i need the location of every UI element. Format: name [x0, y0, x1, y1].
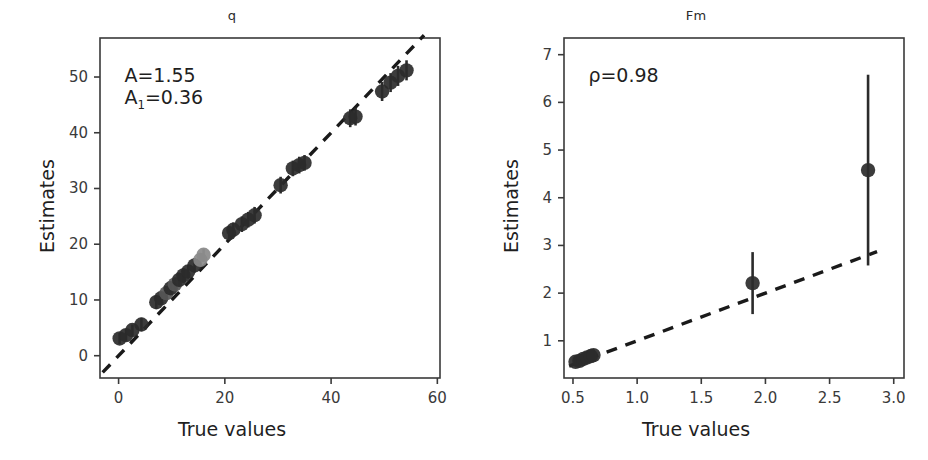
svg-text:5: 5 [542, 141, 552, 159]
svg-text:0: 0 [78, 347, 88, 365]
annotation-fm: ρ=0.98 [588, 64, 658, 86]
annotation-line: A=1.55 [124, 64, 203, 86]
annotation-q: A=1.55A1=0.36 [124, 64, 203, 113]
svg-text:10: 10 [69, 291, 88, 309]
svg-text:3.0: 3.0 [882, 389, 906, 407]
panel-q: q 020406001020304050 Estimates True valu… [0, 0, 464, 460]
panel-fm: Fm 0.51.01.52.02.53.01234567 Estimates T… [464, 0, 928, 460]
y-axis-label-q: Estimates [36, 131, 58, 281]
x-axis-label-q: True values [0, 418, 464, 440]
svg-text:40: 40 [322, 389, 341, 407]
svg-text:30: 30 [69, 179, 88, 197]
scatter-plot-q: 020406001020304050 [0, 0, 464, 460]
figure-root: q 020406001020304050 Estimates True valu… [0, 0, 928, 460]
annotation-line: A1=0.36 [124, 86, 203, 113]
svg-text:40: 40 [69, 124, 88, 142]
annotation-line: ρ=0.98 [588, 64, 658, 86]
svg-text:60: 60 [428, 389, 447, 407]
svg-text:4: 4 [542, 189, 552, 207]
svg-text:20: 20 [69, 235, 88, 253]
svg-text:1.5: 1.5 [689, 389, 713, 407]
x-axis-label-fm: True values [464, 418, 928, 440]
svg-text:2.5: 2.5 [818, 389, 842, 407]
svg-text:20: 20 [215, 389, 234, 407]
svg-text:0: 0 [114, 389, 124, 407]
scatter-plot-fm: 0.51.01.52.02.53.01234567 [464, 0, 928, 460]
svg-text:0.5: 0.5 [561, 389, 585, 407]
svg-text:7: 7 [542, 46, 552, 64]
svg-text:3: 3 [542, 236, 552, 254]
svg-text:50: 50 [69, 68, 88, 86]
svg-text:6: 6 [542, 93, 552, 111]
svg-text:2: 2 [542, 284, 552, 302]
y-axis-label-fm: Estimates [500, 131, 522, 281]
svg-text:2.0: 2.0 [754, 389, 778, 407]
svg-text:1.0: 1.0 [625, 389, 649, 407]
svg-text:1: 1 [542, 332, 552, 350]
